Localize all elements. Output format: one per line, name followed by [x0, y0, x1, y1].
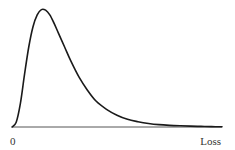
loss-distribution-chart: 0 Loss [0, 0, 235, 150]
x-tick-label-0: 0 [10, 135, 16, 147]
density-curve [12, 9, 222, 127]
x-axis-label: Loss [200, 135, 221, 147]
